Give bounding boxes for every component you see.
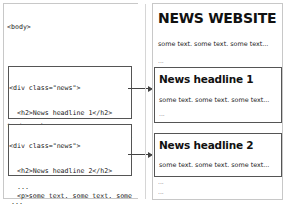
ellipsis: ... xyxy=(158,57,164,64)
news-headline: News headline 1 xyxy=(159,73,253,85)
code-line: ... xyxy=(7,198,35,206)
news-paragraph: some text. some text. some text... xyxy=(159,161,269,169)
code-box-news-2: <div class="news"> <h2>News headline 2</… xyxy=(8,124,132,176)
html-code-panel: <body> <h1>NEWS WEBSITE</h1> <p>some tex… xyxy=(3,3,138,199)
code-line: <div class="news"> xyxy=(9,84,132,92)
intro-paragraph: some text. some text. some text... xyxy=(158,40,268,48)
code-line: <h2>News headline 2</h2> xyxy=(9,167,132,175)
ellipsis: ... xyxy=(158,188,164,195)
news-headline: News headline 2 xyxy=(159,139,253,151)
code-line: <h2>News headline 1</h2> xyxy=(9,109,132,117)
page-title: NEWS WEBSITE xyxy=(158,10,276,26)
panel-divider xyxy=(145,4,153,199)
news-box-1: News headline 1 some text. some text. so… xyxy=(154,67,282,123)
code-blank-line xyxy=(7,48,130,56)
ellipsis: ... xyxy=(159,110,165,117)
ellipsis: ... xyxy=(158,178,164,185)
code-line: <body> xyxy=(7,23,130,31)
code-box-news-1: <div class="news"> <h2>News headline 1</… xyxy=(8,66,132,119)
news-box-2: News headline 2 some text. some text. so… xyxy=(154,133,282,177)
rendered-webpage-panel: NEWS WEBSITE some text. some text. some … xyxy=(152,3,283,200)
news-paragraph: some text. some text. some text... xyxy=(159,96,269,104)
code-lines-bottom: ... </body> xyxy=(7,182,35,208)
code-line: <div class="news"> xyxy=(9,142,132,150)
